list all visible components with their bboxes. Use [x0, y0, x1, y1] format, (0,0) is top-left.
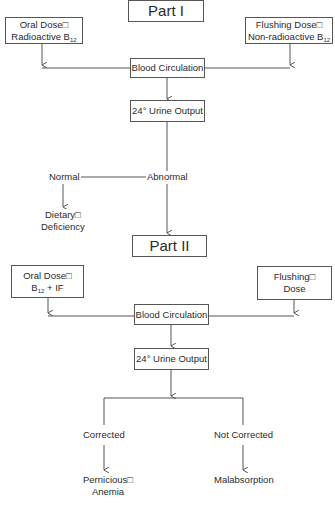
pernicious-anemia-line2: Anemia	[83, 486, 133, 498]
oral-dose-line2: B12 + IF	[23, 282, 72, 294]
corrected-label: Corrected	[82, 429, 126, 441]
urine-output-box-part2: 24° Urine Output	[134, 348, 209, 370]
pernicious-anemia-line1: Pernicious□	[83, 474, 133, 486]
part-1-title-text: Part I	[148, 5, 184, 17]
urine-output-text: 24° Urine Output	[132, 105, 203, 117]
dietary-deficiency-label: Dietary□ Deficiency	[40, 209, 86, 233]
flushing-dose-line1: Flushing Dose□	[248, 19, 330, 31]
oral-dose-line2: Radioactive B12	[11, 31, 76, 43]
part-2-title: Part II	[132, 235, 207, 257]
schilling-test-flowchart: Part I Oral Dose□ Radioactive B12 Flushi…	[0, 0, 335, 507]
radioactive-b-text: Radioactive B	[11, 31, 70, 42]
dietary-deficiency-line2: Deficiency	[41, 221, 85, 233]
nonradioactive-b-text: Non-radioactive B	[248, 31, 324, 42]
oral-dose-radioactive-b12-box: Oral Dose□ Radioactive B12	[5, 17, 83, 44]
flushing-dose-line1: Flushing□	[274, 271, 316, 283]
blood-circulation-box-part2: Blood Circulation	[134, 304, 209, 325]
b12-subscript: 12	[70, 37, 77, 43]
malabsorption-label: Malabsorption	[213, 474, 275, 486]
part-2-title-text: Part II	[149, 240, 189, 252]
plus-if-text: + IF	[44, 282, 63, 293]
flushing-dose-line2: Dose	[274, 283, 316, 295]
part-1-title: Part I	[128, 0, 204, 22]
b12-subscript: 12	[323, 37, 330, 43]
oral-dose-b12-if-box: Oral Dose□ B12 + IF	[11, 265, 84, 298]
oral-dose-line1: Oral Dose□	[11, 19, 76, 31]
pernicious-anemia-label: Pernicious□ Anemia	[82, 474, 134, 498]
blood-circulation-text: Blood Circulation	[136, 309, 208, 321]
blood-circulation-box-part1: Blood Circulation	[130, 58, 205, 78]
dietary-deficiency-line1: Dietary□	[41, 209, 85, 221]
blood-circulation-text: Blood Circulation	[132, 62, 204, 74]
abnormal-label: Abnormal	[146, 171, 189, 183]
flushing-dose-box-part2: Flushing□ Dose	[257, 266, 332, 300]
urine-output-text: 24° Urine Output	[136, 353, 207, 365]
urine-output-box-part1: 24° Urine Output	[130, 100, 205, 122]
oral-dose-line1: Oral Dose□	[23, 270, 72, 282]
not-corrected-label: Not Corrected	[213, 429, 274, 441]
flushing-dose-nonradioactive-b12-box: Flushing Dose□ Non-radioactive B12	[245, 17, 333, 44]
flushing-dose-line2: Non-radioactive B12	[248, 31, 330, 43]
normal-label: Normal	[48, 171, 81, 183]
